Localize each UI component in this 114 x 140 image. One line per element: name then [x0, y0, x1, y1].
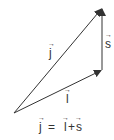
vector-diagram: → j → s → l → j = → l + → s: [0, 0, 114, 140]
label-l: l: [66, 92, 69, 106]
eq-term1: l: [64, 120, 67, 134]
eq-lhs: j: [38, 120, 42, 134]
eq-plus: +: [68, 120, 75, 134]
vector-l-arrow: [14, 71, 101, 114]
equation: → j = → l + → s: [38, 114, 82, 134]
eq-equals: =: [48, 120, 55, 134]
label-j: j: [48, 46, 52, 60]
vector-j-arrow: [14, 9, 101, 113]
eq-term2: s: [76, 120, 82, 134]
label-s: s: [105, 37, 111, 51]
